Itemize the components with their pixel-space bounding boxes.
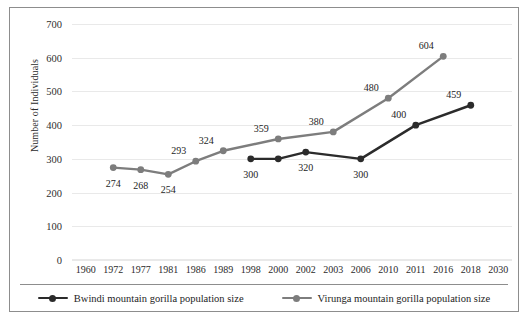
data-point-marker bbox=[302, 149, 309, 156]
legend-item[interactable]: Bwindi mountain gorilla population size bbox=[38, 293, 244, 304]
data-point-marker bbox=[137, 166, 144, 173]
legend-label: Bwindi mountain gorilla population size bbox=[74, 293, 244, 304]
x-axis-tick-label: 2018 bbox=[461, 264, 481, 275]
series-line bbox=[251, 105, 471, 159]
data-point-marker bbox=[467, 102, 474, 109]
x-axis-tick-label: 1960 bbox=[76, 264, 96, 275]
chart-figure: 7006005004003002001000 Number of Individ… bbox=[0, 0, 528, 323]
x-axis-tick-label: 1977 bbox=[131, 264, 151, 275]
plot-area: 3003203004004592742682542933243593804806… bbox=[72, 24, 512, 260]
data-point-marker bbox=[275, 155, 282, 162]
x-axis-tick-label: 2010 bbox=[378, 264, 398, 275]
series-layer bbox=[72, 24, 512, 260]
x-axis-tick-label: 1998 bbox=[241, 264, 261, 275]
x-axis-tick-label: 1986 bbox=[186, 264, 206, 275]
x-axis-tick-label: 2016 bbox=[433, 264, 453, 275]
y-axis-tick-label: 600 bbox=[46, 52, 62, 63]
data-point-marker bbox=[330, 128, 337, 135]
data-point-marker bbox=[275, 136, 282, 143]
x-axis-tick-labels: 1960197219771981198619891998200020022003… bbox=[72, 264, 512, 280]
y-axis-tick-label: 500 bbox=[46, 86, 62, 97]
x-axis-tick-label: 2003 bbox=[323, 264, 343, 275]
legend-marker-icon bbox=[38, 293, 68, 303]
y-axis-tick-label: 0 bbox=[57, 255, 62, 266]
x-axis-tick-label: 1972 bbox=[103, 264, 123, 275]
x-axis-tick-label: 2030 bbox=[488, 264, 508, 275]
y-axis-tick-label: 300 bbox=[46, 153, 62, 164]
data-point-marker bbox=[192, 158, 199, 165]
x-axis-tick-label: 2011 bbox=[406, 264, 426, 275]
data-point-marker bbox=[165, 171, 172, 178]
x-axis-tick-label: 2002 bbox=[296, 264, 316, 275]
y-axis-title: Number of Individuals bbox=[29, 21, 40, 191]
y-axis-tick-label: 200 bbox=[46, 187, 62, 198]
x-axis-tick-label: 1989 bbox=[213, 264, 233, 275]
legend-label: Virunga mountain gorilla population size bbox=[318, 293, 491, 304]
x-axis-tick-label: 2000 bbox=[268, 264, 288, 275]
x-axis-tick-label: 2006 bbox=[351, 264, 371, 275]
legend-marker-icon bbox=[282, 293, 312, 303]
chart-frame: 7006005004003002001000 Number of Individ… bbox=[9, 7, 519, 312]
data-point-marker bbox=[385, 95, 392, 102]
data-point-marker bbox=[440, 53, 447, 60]
y-axis-tick-label: 400 bbox=[46, 120, 62, 131]
data-point-marker bbox=[220, 147, 227, 154]
legend-item[interactable]: Virunga mountain gorilla population size bbox=[282, 293, 491, 304]
data-point-marker bbox=[110, 164, 117, 171]
y-axis-tick-label: 700 bbox=[46, 19, 62, 30]
chart-legend: Bwindi mountain gorilla population sizeV… bbox=[20, 284, 508, 311]
x-axis-tick-label: 1981 bbox=[158, 264, 178, 275]
data-point-marker bbox=[412, 122, 419, 129]
gridline bbox=[72, 260, 512, 261]
y-axis-tick-label: 100 bbox=[46, 221, 62, 232]
data-point-marker bbox=[247, 155, 254, 162]
data-point-marker bbox=[357, 155, 364, 162]
